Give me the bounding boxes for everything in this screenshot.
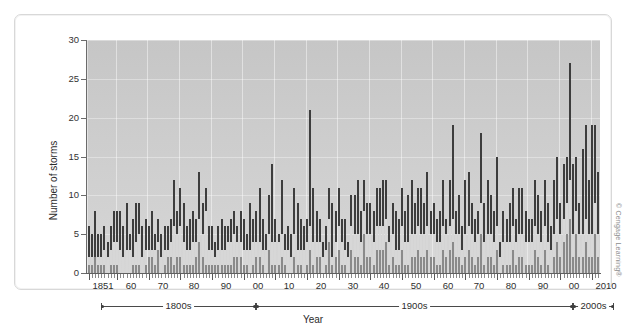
- bar-1879: [176, 211, 178, 273]
- x-minor-tick-1922: [313, 274, 314, 278]
- x-minor-tick-1972: [472, 274, 473, 278]
- bar-segment-hurricanes-1941: [373, 242, 375, 265]
- x-minor-tick-1888: [206, 274, 207, 278]
- bar-1942: [376, 188, 378, 273]
- bar-segment-named-1984: [509, 203, 511, 242]
- x-minor-tick-2000: [560, 274, 561, 280]
- bar-segment-major-1882: [186, 265, 188, 273]
- bar-1911: [278, 234, 280, 273]
- bar-segment-major-1869: [145, 265, 147, 273]
- x-minor-tick-1961: [437, 274, 438, 278]
- bar-segment-hurricanes-1867: [138, 234, 140, 265]
- bar-segment-hurricanes-2008: [585, 219, 587, 242]
- bar-segment-named-1862: [122, 226, 124, 257]
- bar-segment-hurricanes-1877: [170, 242, 172, 258]
- bar-segment-named-1911: [278, 234, 280, 242]
- bar-segment-named-1891: [214, 242, 216, 258]
- bar-segment-named-1854: [97, 234, 99, 257]
- bar-segment-hurricanes-1882: [186, 250, 188, 266]
- bracket-arrow-left: [573, 305, 576, 308]
- bar-segment-hurricanes-1870: [148, 250, 150, 258]
- bar-segment-major-1906: [262, 265, 264, 273]
- bar-segment-major-1878: [173, 265, 175, 273]
- bracket-arrow-left: [101, 305, 104, 308]
- bar-segment-named-1885: [195, 219, 197, 242]
- bar-segment-named-1853: [94, 211, 96, 258]
- bar-1901: [246, 234, 248, 273]
- bracket-label: 1800s: [163, 300, 195, 312]
- bar-segment-named-1949: [398, 219, 400, 250]
- bar-1852: [91, 234, 93, 273]
- bar-1989: [525, 211, 527, 273]
- bar-1883: [189, 219, 191, 273]
- bar-segment-named-1888: [205, 188, 207, 211]
- x-minor-tick-1935: [355, 274, 356, 278]
- bar-segment-named-1963: [442, 180, 444, 227]
- bar-1945: [385, 180, 387, 273]
- bar-segment-major-1970: [464, 257, 466, 273]
- x-minor-tick-1937: [361, 274, 362, 278]
- x-minor-tick-1915: [291, 274, 292, 278]
- x-minor-tick-1967: [456, 274, 457, 278]
- y-tick-label-20: 20: [49, 113, 79, 123]
- bracket-label: 1900s: [399, 300, 431, 312]
- bar-segment-major-1856: [103, 265, 105, 273]
- bar-segment-named-2005: [575, 157, 577, 211]
- bar-1873: [157, 219, 159, 273]
- bar-segment-major-1991: [531, 265, 533, 273]
- bar-segment-major-1908: [268, 250, 270, 273]
- bar-segment-named-1882: [186, 226, 188, 249]
- bar-segment-named-1924: [319, 219, 321, 242]
- x-minor-tick-1857: [108, 274, 109, 278]
- gridline-h-15: [87, 157, 600, 158]
- bar-2006: [578, 203, 580, 273]
- x-minor-tick-1964: [446, 274, 447, 278]
- bar-1895: [227, 226, 229, 273]
- bar-segment-major-1855: [100, 265, 102, 273]
- bar-segment-major-1953: [411, 257, 413, 273]
- bar-segment-hurricanes-1997: [550, 250, 552, 273]
- bar-1927: [328, 188, 330, 273]
- x-minor-tick-1919: [304, 274, 305, 278]
- bar-segment-hurricanes-1927: [328, 219, 330, 242]
- bar-segment-hurricanes-2005: [575, 211, 577, 234]
- bar-1855: [100, 234, 102, 273]
- bar-segment-named-1937: [360, 211, 362, 242]
- x-minor-tick-1929: [336, 274, 337, 278]
- bar-segment-major-1934: [350, 250, 352, 273]
- bar-1868: [141, 226, 143, 273]
- bar-segment-hurricanes-1959: [430, 234, 432, 257]
- bar-1958: [426, 172, 428, 273]
- bar-segment-named-1954: [414, 203, 416, 234]
- x-tick-label-70: 70: [474, 281, 485, 291]
- bar-1854: [97, 234, 99, 273]
- bar-1977: [487, 180, 489, 273]
- bar-1913: [284, 234, 286, 273]
- x-minor-tick-1968: [459, 274, 460, 278]
- bar-segment-named-1982: [502, 211, 504, 242]
- bar-segment-major-1898: [236, 257, 238, 273]
- y-tick-0: [81, 273, 86, 274]
- x-minor-tick-1933: [348, 274, 349, 278]
- bar-segment-named-1913: [284, 234, 286, 250]
- bar-segment-hurricanes-1984: [509, 242, 511, 265]
- bar-segment-named-1884: [192, 211, 194, 242]
- bar-segment-named-1940: [369, 203, 371, 234]
- bar-segment-hurricanes-1946: [388, 242, 390, 265]
- bar-segment-major-2004: [572, 257, 574, 273]
- x-tick-label-90: 90: [538, 281, 549, 291]
- bar-1934: [350, 195, 352, 273]
- bar-segment-hurricanes-1923: [316, 242, 318, 258]
- bar-segment-hurricanes-1945: [385, 219, 387, 242]
- bar-segment-named-1983: [506, 219, 508, 242]
- x-minor-tick-1976: [484, 274, 485, 278]
- x-tick-label-1851: 1851: [92, 281, 113, 291]
- x-minor-tick-1970: [465, 274, 466, 280]
- x-minor-tick-1890: [212, 274, 213, 280]
- bar-segment-named-1902: [249, 203, 251, 250]
- bar-segment-named-1851: [88, 226, 90, 257]
- x-axis-tick-labels: 18516070809000102030405060708090002010: [15, 281, 631, 295]
- bar-segment-major-1947: [392, 257, 394, 273]
- bar-segment-named-1894: [224, 226, 226, 249]
- bar-segment-named-1962: [439, 211, 441, 242]
